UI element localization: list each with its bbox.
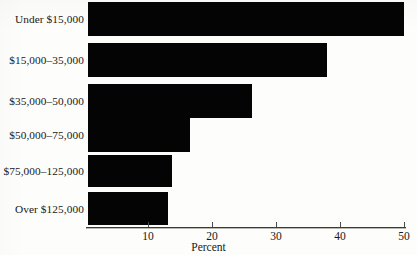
category-label-50000-75000: $50,000–75,000: [0, 129, 84, 141]
x-tick-10: [148, 222, 149, 227]
x-axis-line-shadow: [86, 228, 406, 229]
category-label-under-15000: Under $15,000: [0, 13, 84, 25]
bar-75000-125000: [88, 155, 172, 187]
x-tick-20: [212, 222, 213, 227]
category-label-35000-50000: $35,000–50,000: [0, 95, 84, 107]
x-tick-40: [340, 222, 341, 227]
bar-35000-50000: [88, 84, 252, 118]
x-tick-30: [276, 222, 277, 227]
category-label-75000-125000: $75,000–125,000: [0, 165, 84, 177]
category-label-15000-35000: $15,000–35,000: [0, 54, 84, 66]
paper-grain-overlay: [0, 0, 417, 255]
category-label-over-125000: Over $125,000: [0, 203, 84, 215]
bar-over-125000: [88, 192, 168, 225]
x-axis-title: Percent: [0, 241, 417, 254]
bar-chart: Under $15,000 $15,000–35,000 $35,000–50,…: [0, 0, 417, 255]
bar-50000-75000: [88, 118, 190, 152]
x-tick-50: [404, 222, 405, 227]
bar-under-15000: [88, 2, 404, 36]
bar-15000-35000: [88, 43, 327, 77]
